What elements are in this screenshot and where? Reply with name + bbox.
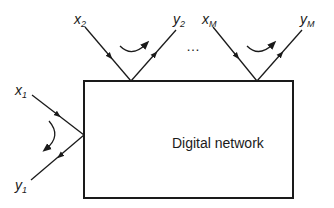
y1-outgoing-line — [31, 135, 84, 180]
x2-incoming-line — [85, 27, 131, 81]
ellipsis: … — [186, 38, 202, 54]
port-2: x2 y2 — [73, 11, 185, 81]
reflection-curve-arrow-icon — [46, 121, 55, 149]
x1-label: x1 — [14, 82, 27, 100]
yM-label: yM — [299, 11, 315, 29]
reflection-curve-arrow-icon — [120, 44, 146, 52]
digital-network-diagram: Digital network x2 y2 … xM yM x1 y1 — [0, 0, 334, 208]
y2-label: y2 — [172, 11, 185, 29]
yM-outgoing-line — [257, 30, 302, 81]
port-1: x1 y1 — [14, 82, 84, 195]
digital-network-label: Digital network — [172, 135, 265, 151]
reflection-curve-arrow-icon — [247, 44, 273, 52]
xM-incoming-line — [213, 27, 257, 81]
port-M: xM yM — [201, 11, 315, 81]
xM-label: xM — [201, 11, 217, 29]
x2-label: x2 — [73, 11, 86, 29]
y1-label: y1 — [14, 177, 27, 195]
y2-outgoing-line — [131, 30, 176, 81]
